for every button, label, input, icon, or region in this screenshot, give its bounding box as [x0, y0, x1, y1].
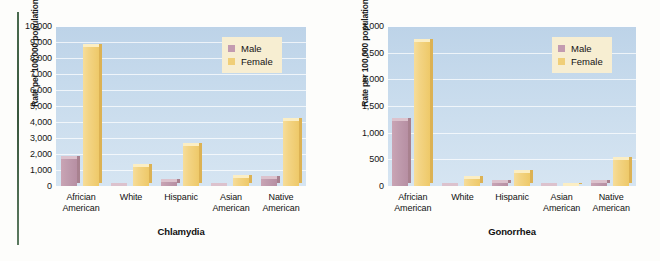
chart-title: Chlamydia: [56, 226, 306, 237]
bar-female-native-american: [283, 118, 302, 186]
bar-front-face: [183, 146, 199, 186]
chart-panel-gonorrhea: Rate per 100,000 population 3,0002,5002,…: [330, 0, 660, 261]
bar-side-face: [99, 44, 102, 183]
legend-label: Male: [241, 43, 262, 54]
category-label-line1: Hispanic: [164, 192, 198, 202]
y-axis-tick-label: 5,000: [30, 102, 52, 111]
category-label-line2: American: [50, 203, 112, 214]
bar-male-hispanic: [492, 180, 511, 186]
y-axis-tick-label: 10,000: [25, 22, 52, 31]
legend-swatch-female-icon: [558, 58, 565, 65]
category-label-line2: American: [250, 203, 312, 214]
bar-female-native-american: [613, 157, 632, 186]
gridline: [388, 26, 636, 27]
chart-title: Gonorrhea: [388, 226, 636, 237]
bar-front-face: [161, 182, 177, 186]
legend-item-female: Female: [558, 55, 603, 68]
y-axis-tick-label: 1,000: [362, 128, 384, 137]
bar-side-face: [299, 118, 302, 183]
category-label-line1: Africian: [398, 192, 427, 202]
bar-front-face: [414, 42, 430, 186]
y-axis-tick-label: 500: [369, 155, 384, 164]
bar-side-face: [480, 176, 483, 183]
bar-female-africian-american: [83, 44, 102, 186]
y-axis-tick-label: 9,000: [30, 38, 52, 47]
figure-canvas: Rate per 100,000 population 10,0009,0008…: [0, 0, 660, 261]
bar-side-face: [149, 164, 152, 183]
bar-male-white: [442, 183, 461, 186]
bar-front-face: [83, 47, 99, 186]
y-axis-tick-label: 0: [379, 182, 384, 191]
category-label-line1: White: [120, 192, 143, 202]
bar-front-face: [613, 160, 629, 186]
bar-side-face: [77, 156, 80, 183]
y-axis-tick-labels: 10,0009,0008,0007,0006,0005,0004,0003,00…: [8, 26, 52, 186]
bar-male-asian-american: [211, 183, 230, 186]
y-axis-tick-labels: 3,0002,5002,0001,5001,0005000: [340, 26, 384, 186]
legend-item-male: Male: [558, 42, 603, 55]
x-axis-category-native: NativeAmerican: [580, 192, 642, 214]
y-axis-tick-label: 3,000: [362, 22, 384, 31]
y-axis-tick-label: 1,000: [30, 166, 52, 175]
bar-female-asian-american: [233, 175, 252, 186]
category-label-line1: Hispanic: [495, 192, 529, 202]
bar-front-face: [492, 183, 508, 186]
bar-male-asian-american: [541, 183, 560, 186]
category-label-line1: Asian: [551, 192, 573, 202]
y-axis-tick-label: 2,000: [362, 75, 384, 84]
legend-swatch-female-icon: [228, 58, 235, 65]
y-axis-tick-label: 2,500: [362, 48, 384, 57]
legend-label: Female: [241, 56, 273, 67]
y-axis-tick-label: 1,500: [362, 102, 384, 111]
y-axis-tick-label: 6,000: [30, 86, 52, 95]
gridline: [56, 26, 306, 27]
legend-swatch-male-icon: [228, 45, 235, 52]
bar-top-face: [211, 183, 227, 186]
bar-male-africian-american: [61, 156, 80, 186]
bar-front-face: [514, 173, 530, 186]
y-axis-tick-label: 3,000: [30, 134, 52, 143]
legend-label: Male: [571, 43, 592, 54]
bar-side-face: [508, 180, 511, 183]
legend-item-female: Female: [228, 55, 273, 68]
bar-side-face: [530, 170, 533, 183]
y-axis-tick-label: 2,000: [30, 150, 52, 159]
bar-female-hispanic: [514, 170, 533, 186]
bar-front-face: [392, 121, 408, 186]
y-axis-tick-label: 0: [47, 182, 52, 191]
chart-panel-chlamydia: Rate per 100,000 population 10,0009,0008…: [0, 0, 330, 261]
bar-front-face: [133, 167, 149, 186]
category-label-line2: American: [580, 203, 642, 214]
bar-side-face: [249, 175, 252, 183]
bar-male-white: [111, 183, 130, 186]
bar-male-native-american: [591, 180, 610, 186]
bar-front-face: [233, 178, 249, 186]
y-axis-tick-label: 4,000: [30, 118, 52, 127]
bar-male-africian-american: [392, 118, 411, 186]
legend-swatch-male-icon: [558, 45, 565, 52]
legend-label: Female: [571, 56, 603, 67]
bar-side-face: [199, 143, 202, 183]
category-label-line1: Asian: [220, 192, 242, 202]
bar-front-face: [61, 159, 77, 186]
bar-front-face: [591, 183, 607, 186]
category-label-line2: American: [382, 203, 444, 214]
bar-male-hispanic: [161, 179, 180, 186]
bar-top-face: [442, 183, 458, 186]
y-axis-tick-label: 8,000: [30, 54, 52, 63]
category-label-line1: White: [451, 192, 474, 202]
bar-front-face: [261, 179, 277, 186]
legend-item-male: Male: [228, 42, 273, 55]
bar-side-face: [607, 180, 610, 183]
bar-female-white: [464, 176, 483, 186]
bar-female-white: [133, 164, 152, 186]
legend: MaleFemale: [222, 37, 282, 73]
category-label-line1: Native: [599, 192, 624, 202]
bar-side-face: [277, 176, 280, 183]
bar-side-face: [629, 157, 632, 183]
bar-side-face: [430, 39, 433, 183]
bar-side-face: [408, 118, 411, 183]
bar-female-hispanic: [183, 143, 202, 186]
bar-female-africian-american: [414, 39, 433, 186]
bar-male-native-american: [261, 176, 280, 186]
